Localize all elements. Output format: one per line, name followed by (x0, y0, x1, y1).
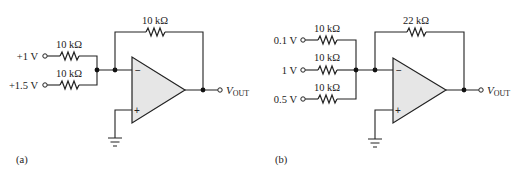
output-a: VOUT (185, 84, 249, 98)
output-terminal-icon (479, 88, 483, 92)
noninverting-sign: + (395, 105, 401, 116)
junction-dot-icon (354, 68, 359, 73)
ground-icon (108, 138, 122, 146)
ground-icon (368, 139, 382, 147)
input-terminal-icon (43, 83, 47, 87)
input-a2: +1.5 V 10 kΩ (9, 68, 97, 91)
resistor-label: 10 kΩ (56, 68, 82, 79)
opamp-a: − + (132, 57, 185, 123)
junction-dot-icon (201, 88, 206, 93)
vout-label: VOUT (487, 84, 510, 98)
input-voltage-label: 0.5 V (274, 94, 298, 105)
resistor-label: 10 kΩ (314, 82, 340, 93)
ground-a (108, 110, 132, 146)
resistor-label: 10 kΩ (56, 39, 82, 50)
input-b2: 1 V 10 kΩ (282, 52, 356, 76)
junction-dot-icon (462, 88, 467, 93)
circuit-b: 0.1 V 10 kΩ 1 V 10 kΩ 0.5 V 10 kΩ (274, 15, 510, 166)
output-b: VOUT (446, 84, 510, 98)
opamp-b: − + (393, 58, 446, 123)
output-terminal-icon (218, 88, 222, 92)
resistor-icon (318, 66, 337, 74)
input-voltage-label: 0.1 V (274, 35, 298, 46)
input-voltage-label: 1 V (282, 65, 298, 76)
junction-dot-icon (95, 68, 100, 73)
input-terminal-icon (301, 38, 305, 42)
circuit-diagram: +1 V 10 kΩ +1.5 V 10 kΩ 10 kΩ (0, 0, 516, 182)
noninverting-sign: + (134, 105, 140, 116)
caption-b: (b) (275, 154, 288, 166)
resistor-label: 10 kΩ (314, 52, 340, 63)
input-terminal-icon (301, 97, 305, 101)
wire (115, 110, 132, 138)
ground-b (368, 110, 393, 147)
caption-a: (a) (16, 154, 28, 166)
input-a1: +1 V 10 kΩ (17, 39, 97, 70)
resistor-icon (146, 28, 165, 36)
feedback-resistor-label: 10 kΩ (142, 15, 168, 26)
input-voltage-label: +1.5 V (9, 80, 38, 91)
input-terminal-icon (43, 54, 47, 58)
resistor-icon (407, 28, 426, 36)
inverting-sign: − (396, 65, 402, 76)
resistor-icon (60, 52, 79, 60)
resistor-label: 10 kΩ (314, 23, 340, 34)
feedback-resistor-label: 22 kΩ (403, 15, 429, 26)
input-voltage-label: +1 V (17, 51, 39, 62)
vout-label: VOUT (226, 84, 249, 98)
circuit-a: +1 V 10 kΩ +1.5 V 10 kΩ 10 kΩ (9, 15, 249, 166)
resistor-icon (60, 81, 79, 89)
input-terminal-icon (301, 68, 305, 72)
inverting-sign: − (135, 65, 141, 76)
wire (375, 110, 393, 139)
resistor-icon (318, 36, 337, 44)
resistor-icon (318, 95, 337, 103)
